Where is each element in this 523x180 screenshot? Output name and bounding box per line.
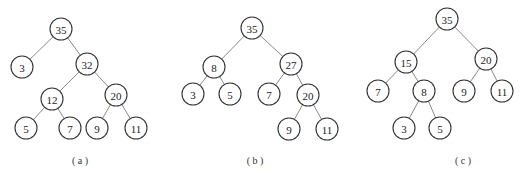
tree-node: 7 — [367, 80, 389, 102]
tree-node: 20 — [105, 84, 127, 106]
tree-nodes: 3533212205791135827357209113515207891135 — [11, 8, 513, 140]
tree-node: 9 — [86, 117, 108, 139]
tree-node: 8 — [413, 80, 435, 102]
node-label: 11 — [497, 86, 508, 98]
tree-caption: ( a ) — [72, 155, 88, 167]
tree-node: 35 — [436, 8, 458, 30]
node-label: 9 — [461, 86, 467, 98]
node-label: 35 — [247, 23, 259, 35]
node-label: 7 — [266, 89, 272, 101]
tree-node: 32 — [76, 53, 98, 75]
node-label: 15 — [401, 57, 413, 69]
tree-node: 3 — [393, 117, 415, 139]
tree-node: 5 — [15, 117, 37, 139]
binary-trees-diagram: 3533212205791135827357209113515207891135… — [0, 0, 523, 180]
tree-node: 11 — [316, 118, 338, 140]
node-label: 20 — [111, 90, 123, 102]
tree-node: 5 — [429, 117, 451, 139]
tree-node: 11 — [125, 117, 147, 139]
node-label: 8 — [211, 62, 217, 74]
tree-captions: ( a )( b )( c ) — [72, 155, 471, 167]
tree-node: 9 — [278, 118, 300, 140]
node-label: 9 — [286, 124, 292, 136]
node-label: 5 — [23, 123, 29, 135]
tree-node: 20 — [475, 48, 497, 70]
node-label: 11 — [131, 123, 142, 135]
tree-node: 35 — [241, 17, 263, 39]
node-label: 27 — [286, 59, 298, 71]
tree-node: 27 — [280, 53, 302, 75]
node-label: 3 — [190, 89, 196, 101]
node-label: 5 — [227, 89, 233, 101]
node-label: 35 — [56, 24, 68, 36]
tree-node: 8 — [203, 56, 225, 78]
node-label: 3 — [19, 62, 25, 74]
tree-node: 35 — [50, 18, 72, 40]
node-label: 8 — [421, 86, 427, 98]
tree-node: 7 — [258, 83, 280, 105]
tree-caption: ( c ) — [455, 155, 471, 167]
tree-node: 11 — [491, 80, 513, 102]
node-label: 35 — [442, 14, 454, 26]
tree-caption: ( b ) — [247, 155, 264, 167]
node-label: 32 — [82, 59, 93, 71]
tree-node: 5 — [219, 83, 241, 105]
tree-edges — [22, 19, 502, 129]
node-label: 20 — [303, 90, 315, 102]
node-label: 20 — [481, 54, 493, 66]
tree-node: 3 — [11, 56, 33, 78]
tree-node: 20 — [297, 84, 319, 106]
tree-node: 15 — [395, 51, 417, 73]
node-label: 7 — [375, 86, 381, 98]
node-label: 7 — [67, 123, 73, 135]
node-label: 9 — [94, 123, 100, 135]
tree-node: 9 — [453, 80, 475, 102]
node-label: 5 — [437, 123, 443, 135]
node-label: 11 — [322, 124, 333, 136]
node-label: 12 — [47, 94, 58, 106]
tree-node: 7 — [59, 117, 81, 139]
tree-node: 3 — [182, 83, 204, 105]
tree-node: 12 — [41, 88, 63, 110]
node-label: 3 — [401, 123, 407, 135]
